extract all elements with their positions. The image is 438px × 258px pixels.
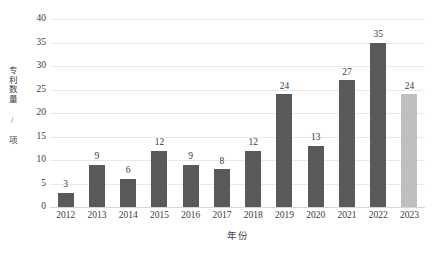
bar-group: 9	[175, 19, 206, 207]
y-axis-tick-label: 5	[20, 179, 46, 189]
bar-group: 9	[81, 19, 112, 207]
y-axis-tick-label: 35	[20, 38, 46, 48]
bars: 3961298122413273524	[50, 19, 425, 207]
x-axis-tick-label: 2021	[337, 211, 356, 221]
x-axis-title: 年份	[50, 232, 425, 242]
bar	[245, 151, 261, 207]
bar-value-label: 12	[155, 138, 165, 148]
bar	[370, 43, 386, 208]
bar-group: 27	[331, 19, 362, 207]
x-axis-tick-label: 2016	[181, 211, 200, 221]
x-axis-tick-label: 2013	[87, 211, 106, 221]
bar	[58, 193, 74, 207]
bar-value-label: 12	[248, 138, 258, 148]
bar-group: 24	[269, 19, 300, 207]
bar-value-label: 9	[188, 152, 193, 162]
bar-value-label: 13	[311, 133, 321, 143]
bar-group: 24	[394, 19, 425, 207]
x-axis-tick-label: 2012	[56, 211, 75, 221]
bar-value-label: 9	[95, 152, 100, 162]
bar	[276, 94, 292, 207]
y-axis-tick-labels: 4035302520151050	[20, 0, 46, 258]
x-axis-tick-label: 2015	[150, 211, 169, 221]
bar-group: 12	[144, 19, 175, 207]
x-axis-tick-label: 2017	[212, 211, 231, 221]
bar	[183, 165, 199, 207]
bar-group: 35	[363, 19, 394, 207]
axis-baseline	[50, 207, 425, 208]
y-axis-title: 专利数量 / 项	[4, 0, 20, 210]
bar-group: 6	[113, 19, 144, 207]
x-axis-tick-label: 2022	[369, 211, 388, 221]
bar-value-label: 6	[126, 166, 131, 176]
bar-value-label: 24	[280, 82, 290, 92]
bar	[214, 169, 230, 207]
bar	[89, 165, 105, 207]
bar-group: 13	[300, 19, 331, 207]
x-axis-tick-label: 2018	[244, 211, 263, 221]
bar	[151, 151, 167, 207]
y-axis-tick-label: 20	[20, 108, 46, 118]
x-axis-tick-labels: 2012201320142015201620172018201920202021…	[50, 211, 425, 229]
bar-group: 3	[50, 19, 81, 207]
bar	[339, 80, 355, 207]
y-axis-tick-label: 30	[20, 61, 46, 71]
x-axis-tick-label: 2023	[400, 211, 419, 221]
y-axis-tick-label: 10	[20, 155, 46, 165]
bar-group: 12	[238, 19, 269, 207]
x-axis-tick-label: 2019	[275, 211, 294, 221]
bar-value-label: 24	[405, 82, 415, 92]
bar	[308, 146, 324, 207]
bar-value-label: 8	[220, 157, 225, 167]
bar	[120, 179, 136, 207]
y-axis-tick-label: 25	[20, 85, 46, 95]
bar	[401, 94, 417, 207]
x-axis-tick-label: 2014	[119, 211, 138, 221]
bar-value-label: 35	[373, 30, 383, 40]
y-axis-tick-label: 15	[20, 132, 46, 142]
bar-value-label: 27	[342, 68, 352, 78]
bar-value-label: 3	[63, 180, 68, 190]
x-axis-tick-label: 2020	[306, 211, 325, 221]
y-axis-tick-label: 40	[20, 14, 46, 24]
y-axis-tick-label: 0	[20, 202, 46, 212]
plot-area: 3961298122413273524	[50, 19, 425, 207]
bar-group: 8	[206, 19, 237, 207]
bar-chart: 专利数量 / 项 4035302520151050 39612981224132…	[0, 0, 438, 258]
